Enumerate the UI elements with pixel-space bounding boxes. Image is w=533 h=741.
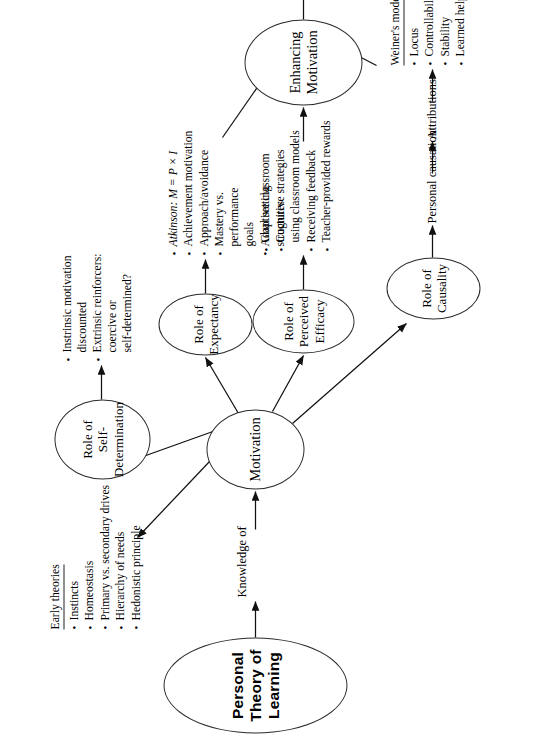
list-item: Goal setting [258,91,273,251]
node-self-determination-label: Role of Self-Determination [79,397,125,480]
list-item: Locus [407,0,422,65]
block-weiners-model: Weiner's model Locus Controllability Sta… [388,0,469,65]
edge-motivation-to-perceived-efficacy [272,355,303,411]
perceived-efficacy-list: Goal setting Cognitive strategies using … [258,91,334,251]
node-motivation-label: Motivation [246,413,263,485]
list-item: Controllability [422,0,437,65]
list-item: Instincts [67,459,82,629]
node-enhancing-motivation[interactable]: Enhancing Motivation [244,19,362,105]
list-item: Approach/avoidance [197,105,212,255]
node-perceived-efficacy-label: Role of Perceived Efficacy [280,290,326,352]
edge-motivation-to-expectancy [205,357,238,413]
list-item: Achievement motivation [181,105,196,255]
concept-map-canvas: Personal Theory of Learning Knowledge of… [0,0,533,741]
knowledge-of-text: Knowledge of [234,526,248,597]
label-knowledge-of: Knowledge of [234,531,250,597]
node-root-label: Personal Theory of Learning [228,638,283,732]
list-item: Extrinsic reinforcers: coercive or self-… [90,211,135,361]
rotated-diagram-wrapper: Personal Theory of Learning Knowledge of… [0,0,533,741]
label-personal-causation: Personal causation [424,130,440,223]
node-expectancy-label: Role of Expectancy [190,290,221,359]
early-theories-header: Early theories [48,564,64,629]
list-item: Mastery vs. performance goals [212,105,257,255]
block-perceived-efficacy-bullets: Goal setting Cognitive strategies using … [258,91,335,251]
node-causality-label: Role of Causality [418,259,449,316]
list-item: Teacher-provided rewards [319,91,334,251]
list-item: Hedonistic principle [129,459,144,629]
node-role-of-self-determination[interactable]: Role of Self-Determination [54,399,150,479]
node-role-of-perceived-efficacy[interactable]: Role of Perceived Efficacy [252,289,354,353]
self-determination-list: Instrinsic motivation discounted Extrins… [60,211,135,361]
block-early-theories: Early theories Instincts Homeostasis Pri… [48,459,144,629]
label-attributions: Attributions [424,79,440,139]
node-role-of-causality[interactable]: Role of Causality [386,257,480,319]
list-item: Homeostasis [82,459,97,629]
block-self-determination-bullets: Instrinsic motivation discounted Extrins… [60,211,136,361]
node-personal-theory-of-learning[interactable]: Personal Theory of Learning [163,637,347,733]
list-item: Hierarchy of needs [113,459,128,629]
node-enhancing-motivation-label: Enhancing Motivation [286,20,320,104]
list-item: Atkinson: M = P × I [166,105,181,255]
personal-causation-text: Personal causation [424,130,438,223]
weiners-model-header: Weiner's model [388,0,404,65]
early-theories-list: Instincts Homeostasis Primary vs. second… [67,459,144,629]
attributions-text: Attributions [424,79,438,139]
node-role-of-expectancy[interactable]: Role of Expectancy [158,293,252,355]
weiners-model-list: Locus Controllability Stability Learned … [407,0,468,65]
list-item: Stability [438,0,453,65]
list-item: Primary vs. secondary drives [98,459,113,629]
node-motivation[interactable]: Motivation [206,409,304,489]
list-item: Instrinsic motivation discounted [60,211,90,361]
list-item: Receiving feedback [304,91,319,251]
list-item: Learned helplessness [453,0,468,65]
list-item: Cognitive strategies using classroom mod… [273,91,303,251]
